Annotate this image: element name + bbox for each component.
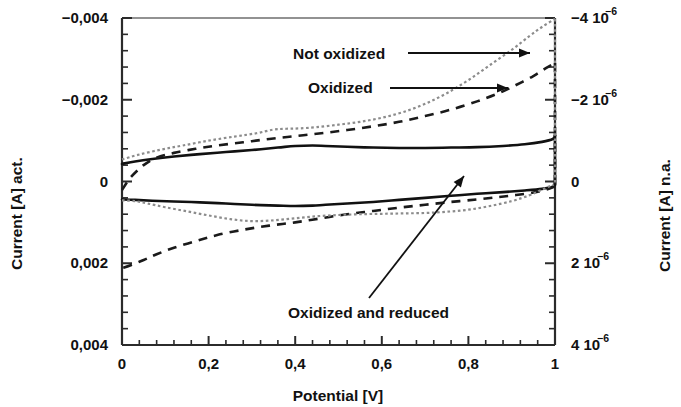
y-tick-label-right-mantissa: 4 10 [571,336,600,353]
y-tick-label-right: −2 10−6 [571,87,617,108]
annotation-label-oxidized: Oxidized [308,79,373,96]
y-axis-right-title: Current [A] n.a. [656,159,673,272]
x-axis-title: Potential [V] [293,387,383,404]
y-tick-label-left: −0,002 [62,91,108,108]
y-tick-label-right-exponent: −6 [605,5,617,17]
y-tick-label-right: 0 [571,173,579,190]
y-tick-label-right-exponent: −6 [597,332,609,344]
y-tick-label-left: 0,004 [70,336,108,353]
y-tick-label-right: 4 10−6 [571,332,609,353]
y-axis-left-title: Current [A] act. [8,157,25,270]
y-tick-label-right-mantissa: 0 [571,173,579,190]
y-tick-label-left: 0 [100,173,108,190]
x-tick-label: 0,4 [285,355,307,372]
annotation-arrowhead-not-oxidized [519,48,530,57]
x-tick-label: 0,2 [198,355,219,372]
y-tick-label-left: 0,002 [70,254,108,271]
tick-marks-group [122,18,555,345]
annotation-label-oxidized-and-reduced: Oxidized and reduced [288,304,449,321]
y-tick-label-right-exponent: −6 [597,250,609,262]
annotation-arrowhead-oxidized-and-reduced [454,176,464,188]
y-tick-label-right-mantissa: −4 10 [571,9,609,26]
x-tick-label: 0,6 [371,355,392,372]
curve-oxidized-reverse [122,186,555,268]
annotation-leader-oxidized-and-reduced [369,176,464,298]
x-tick-label: 0 [118,355,126,372]
cyclic-voltammetry-chart: Not oxidizedOxidizedOxidized and reduced… [0,0,681,407]
axes-group [122,18,555,345]
y-tick-label-right: 2 10−6 [571,250,609,271]
curve-oxidized-and-reduced-reverse [122,185,555,206]
annotations-group: Not oxidizedOxidizedOxidized and reduced [288,45,530,321]
y-tick-label-right: −4 10−6 [571,5,617,26]
y-tick-label-right-mantissa: 2 10 [571,254,600,271]
x-tick-label: 1 [551,355,559,372]
y-tick-label-left: −0,004 [62,9,109,26]
chart-root: Not oxidizedOxidizedOxidized and reduced… [0,0,681,407]
curve-oxidized-and-reduced-forward [122,136,555,164]
y-tick-label-right-exponent: −6 [605,87,617,99]
y-tick-label-right-mantissa: −2 10 [571,91,609,108]
annotation-label-not-oxidized: Not oxidized [293,45,385,62]
x-tick-label: 0,8 [458,355,479,372]
